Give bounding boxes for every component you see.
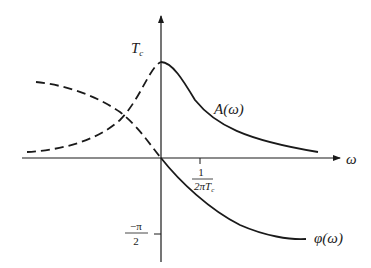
x-tick-numerator: 1	[198, 166, 204, 178]
amplitude-label: A(ω)	[213, 101, 244, 118]
omega-axis-label: ω	[346, 151, 357, 167]
diagram: ω Tc A(ω) φ(ω) 1 2πTc −π 2	[0, 0, 371, 268]
x-tick-denominator: 2πTc	[194, 180, 215, 194]
phase-label: φ(ω)	[314, 230, 343, 247]
phase-curve-negative	[36, 82, 161, 158]
y-tick-numerator: −π	[130, 220, 142, 232]
amplitude-curve-negative	[27, 62, 161, 152]
peak-label: Tc	[131, 40, 143, 58]
phase-curve-positive	[161, 158, 306, 239]
y-tick-denominator: 2	[133, 235, 139, 247]
